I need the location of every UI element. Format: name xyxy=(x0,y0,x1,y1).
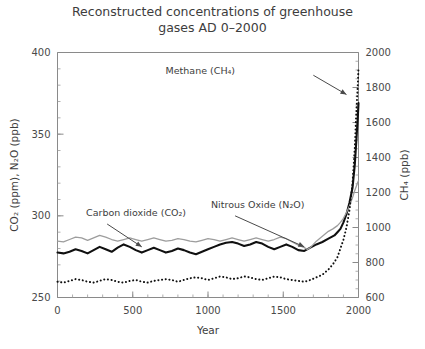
y-left-tick-label: 350 xyxy=(31,129,50,140)
y-left-tick-label: 250 xyxy=(31,292,50,303)
y-right-tick-label: 800 xyxy=(366,257,385,268)
series-ch4 xyxy=(58,68,359,282)
nitrous-oxide-label: Nitrous Oxide (N₂O) xyxy=(211,199,304,210)
y-axis-label-left: CO₂ (ppm), N₂O (ppb) xyxy=(8,118,20,231)
series-co2 xyxy=(58,103,359,254)
y-right-tick-label: 1000 xyxy=(366,222,391,233)
x-tick-label: 500 xyxy=(123,305,142,316)
y-right-tick-label: 2000 xyxy=(366,47,391,58)
y-left-tick-label: 400 xyxy=(31,47,50,58)
chart-canvas: 0500100015002000Year250300350400CO₂ (ppm… xyxy=(0,0,425,349)
carbon-dioxide-label-arrow xyxy=(107,224,142,247)
x-tick-label: 0 xyxy=(54,305,60,316)
x-tick-label: 1500 xyxy=(271,305,296,316)
y-right-tick-label: 600 xyxy=(366,292,385,303)
methane-label: Methane (CH₄) xyxy=(166,65,236,76)
x-tick-label: 1000 xyxy=(195,305,220,316)
nitrous-oxide-label-arrow xyxy=(235,216,304,247)
y-axis-label-right: CH₄ (ppb) xyxy=(398,150,410,201)
y-right-tick-label: 1600 xyxy=(366,117,391,128)
carbon-dioxide-label-arrowhead xyxy=(135,241,141,246)
x-axis-label: Year xyxy=(196,324,220,336)
x-tick-label: 2000 xyxy=(346,305,371,316)
y-right-tick-label: 1200 xyxy=(366,187,391,198)
carbon-dioxide-label: Carbon dioxide (CO₂) xyxy=(86,207,186,218)
methane-label-arrowhead xyxy=(340,89,346,94)
y-left-tick-label: 300 xyxy=(31,210,50,221)
y-right-tick-label: 1400 xyxy=(366,152,391,163)
y-right-tick-label: 1800 xyxy=(366,82,391,93)
chart-figure: Reconstructed concentrations of greenhou… xyxy=(0,0,425,349)
plot-frame xyxy=(58,53,359,298)
